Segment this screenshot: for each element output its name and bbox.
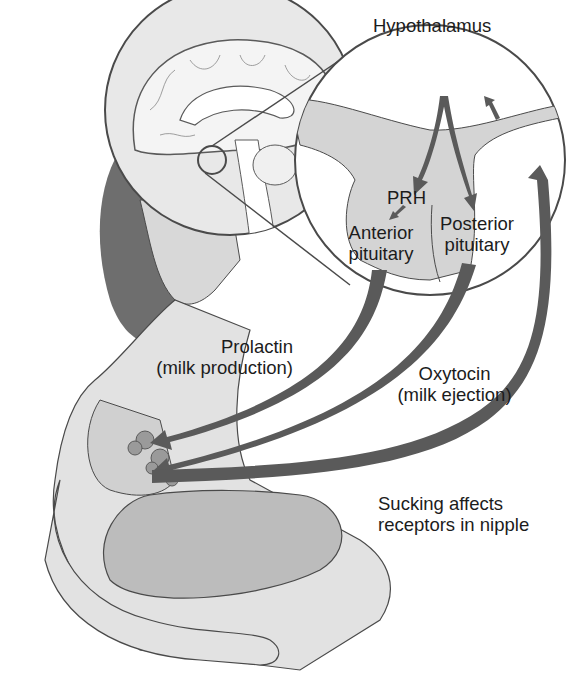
- label-prolactin-line1: Prolactin: [143, 336, 293, 357]
- cerebellum: [253, 145, 297, 185]
- label-sucking: Sucking affects receptors in nipple: [378, 493, 529, 535]
- diagram-canvas: [0, 0, 586, 675]
- label-oxytocin-line2: (milk ejection): [382, 384, 527, 405]
- label-anterior-pituitary-line2: pituitary: [341, 243, 421, 264]
- label-oxytocin: Oxytocin (milk ejection): [382, 363, 527, 405]
- label-anterior-pituitary: Anterior pituitary: [341, 222, 421, 264]
- label-sucking-line1: Sucking affects: [378, 493, 529, 514]
- label-sucking-line2: receptors in nipple: [378, 514, 529, 535]
- label-prolactin: Prolactin (milk production): [143, 336, 293, 378]
- label-posterior-pituitary-line1: Posterior: [436, 213, 518, 234]
- label-prh: PRH: [387, 187, 426, 208]
- label-prolactin-line2: (milk production): [143, 357, 293, 378]
- label-posterior-pituitary-line2: pituitary: [436, 234, 518, 255]
- label-hypothalamus: Hypothalamus: [373, 15, 491, 36]
- lactation-diagram: Hypothalamus PRH Anterior pituitary Post…: [0, 0, 586, 675]
- label-anterior-pituitary-line1: Anterior: [341, 222, 421, 243]
- label-oxytocin-line1: Oxytocin: [382, 363, 527, 384]
- label-posterior-pituitary: Posterior pituitary: [436, 213, 518, 255]
